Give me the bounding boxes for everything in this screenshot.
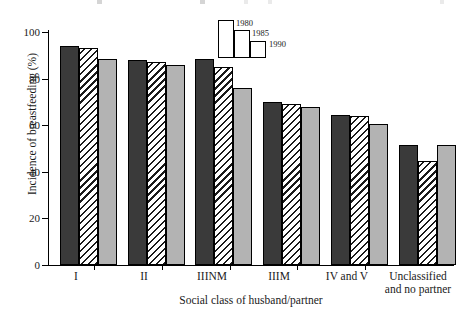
scan-artifact: [0, 0, 461, 7]
x-tick-label-unclassified: Unclassified and no partner: [376, 270, 460, 296]
bar-1980-ii: [128, 60, 147, 265]
bar-1980-unclassified: [399, 145, 418, 265]
x-tick-label-iv-and-v: IV and V: [313, 270, 381, 283]
bar-1980-iiim: [263, 102, 282, 265]
bar-1985-ii: [147, 62, 166, 265]
chart-figure: 100 80 60 40 20 0 Incidence of breastfee…: [0, 0, 461, 315]
bar-1985-unclassified: [418, 161, 437, 265]
bar-1985-iiinm: [214, 67, 233, 265]
x-tick-label-iiim: IIIM: [245, 270, 313, 283]
bar-1985-iiim: [282, 104, 301, 265]
bar-1990-i: [98, 59, 117, 265]
bar-1985-i: [79, 48, 98, 265]
x-axis-label: Social class of husband/partner: [48, 294, 454, 306]
bar-1980-i: [60, 46, 79, 265]
bar-1990-ii: [166, 65, 185, 265]
bar-1990-iiim: [301, 107, 320, 265]
plot-area: [48, 32, 452, 265]
x-axis-line: [48, 265, 454, 266]
bar-1985-iv-and-v: [350, 116, 369, 265]
x-tick-label-i: I: [42, 270, 110, 283]
bar-1990-iiinm: [233, 88, 252, 265]
x-tick-label-ii: II: [110, 270, 178, 283]
bar-1980-iiinm: [195, 59, 214, 265]
x-tick-label-iiinm: IIINM: [178, 270, 246, 283]
y-axis-label: Incidence of breastfeeding (%): [26, 14, 38, 234]
legend-label-1980: 1980: [236, 19, 253, 28]
x-tick-label-unclassified-line1: Unclassified: [376, 270, 460, 283]
bar-1990-unclassified: [437, 145, 456, 265]
y-tick-label-0: 0: [0, 260, 40, 271]
bar-1990-iv-and-v: [369, 124, 388, 265]
bar-1980-iv-and-v: [331, 115, 350, 265]
